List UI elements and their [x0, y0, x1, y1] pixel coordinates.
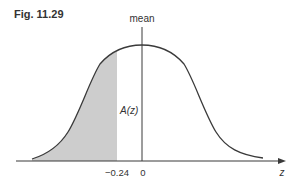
normal-curve-diagram: mean A(z) −0.24 0 z	[0, 0, 297, 192]
x-axis-arrow-icon	[278, 158, 286, 164]
figure: Fig. 11.29 mean A(z) −0.24 0 z	[0, 0, 297, 192]
mean-label: mean	[129, 13, 154, 24]
shaded-area-a-z	[32, 51, 117, 161]
area-label: A(z)	[119, 105, 138, 116]
tick-label-0: 0	[140, 167, 145, 178]
tick-label-neg-0-24: −0.24	[105, 167, 129, 178]
x-axis-label: z	[279, 167, 285, 178]
